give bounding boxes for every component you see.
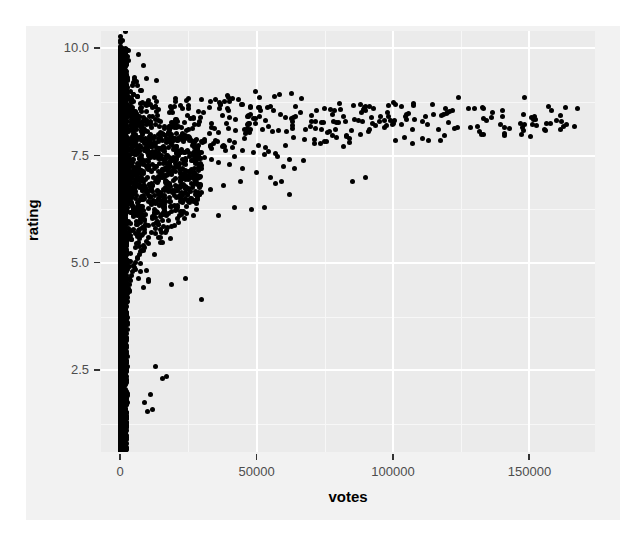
x-axis-tick-label: 0	[116, 464, 123, 479]
scatter-point	[183, 276, 188, 281]
scatter-point	[144, 76, 149, 81]
scatter-point	[196, 122, 201, 127]
scatter-point	[292, 166, 297, 171]
scatter-point	[426, 138, 431, 143]
scatter-point	[251, 116, 256, 121]
gridline-major-vertical	[528, 31, 530, 452]
scatter-point	[338, 107, 343, 112]
scatter-point	[230, 145, 235, 150]
scatter-point	[233, 117, 238, 122]
scatter-point	[169, 170, 174, 175]
scatter-point	[211, 141, 216, 146]
scatter-point	[455, 125, 460, 130]
scatter-point	[303, 127, 308, 132]
scatter-point	[130, 83, 135, 88]
scatter-point	[146, 206, 151, 211]
scatter-point	[358, 132, 363, 137]
scatter-point	[153, 104, 158, 109]
gridline-minor-vertical	[188, 31, 189, 452]
scatter-point	[242, 136, 247, 141]
scatter-point	[507, 126, 512, 131]
scatter-point	[423, 114, 428, 119]
scatter-point	[119, 230, 124, 235]
scatter-point	[167, 110, 172, 115]
scatter-point	[142, 400, 147, 405]
x-axis-tick-label: 150000	[508, 464, 551, 479]
scatter-point	[564, 122, 569, 127]
scatter-point	[149, 169, 154, 174]
y-axis-tick-label: 7.5	[29, 148, 89, 163]
scatter-point	[489, 115, 494, 120]
scatter-point	[534, 123, 539, 128]
scatter-point	[347, 140, 352, 145]
scatter-point	[392, 118, 397, 123]
scatter-point	[475, 124, 480, 129]
scatter-point	[268, 175, 273, 180]
scatter-point	[232, 140, 237, 145]
scatter-point	[319, 127, 324, 132]
scatter-point	[220, 144, 225, 149]
scatter-point	[226, 126, 231, 131]
scatter-point	[157, 202, 162, 207]
scatter-point	[153, 364, 158, 369]
scatter-point	[411, 103, 416, 108]
scatter-point	[136, 171, 141, 176]
scatter-point	[187, 200, 192, 205]
scatter-point	[522, 95, 527, 100]
scatter-point	[148, 155, 153, 160]
scatter-point	[124, 360, 129, 365]
scatter-point	[125, 320, 130, 325]
scatter-point	[309, 119, 314, 124]
scatter-point	[273, 181, 278, 186]
scatter-point	[187, 135, 192, 140]
scatter-point	[201, 110, 206, 115]
scatter-point	[165, 153, 170, 158]
scatter-point	[236, 97, 241, 102]
scatter-point	[484, 118, 489, 123]
scatter-point	[358, 102, 363, 107]
scatter-point	[287, 192, 292, 197]
scatter-point	[126, 163, 131, 168]
scatter-point	[118, 220, 123, 225]
scatter-point	[139, 88, 144, 93]
scatter-point	[195, 197, 200, 202]
scatter-point	[281, 164, 286, 169]
scatter-point	[276, 128, 281, 133]
scatter-point	[246, 122, 251, 127]
x-axis-tick-label: 100000	[371, 464, 414, 479]
scatter-point	[165, 225, 170, 230]
scatter-point	[490, 110, 495, 115]
scatter-point	[136, 52, 141, 57]
scatter-point	[341, 144, 346, 149]
scatter-point	[186, 106, 191, 111]
scatter-point	[371, 106, 376, 111]
scatter-point	[125, 148, 130, 153]
scatter-point	[253, 89, 258, 94]
scatter-point	[190, 151, 195, 156]
scatter-point	[150, 189, 155, 194]
scatter-point	[334, 135, 339, 140]
scatter-point	[146, 277, 151, 282]
scatter-point	[182, 216, 187, 221]
scatter-point	[197, 192, 202, 197]
scatter-point	[155, 188, 160, 193]
x-axis-tick-mark	[256, 454, 258, 460]
scatter-point	[369, 115, 374, 120]
scatter-point	[118, 439, 123, 444]
scatter-point	[268, 104, 273, 109]
x-axis-tick-mark	[528, 454, 530, 460]
scatter-point	[350, 179, 355, 184]
gridline-minor-vertical	[461, 31, 462, 452]
scatter-point	[168, 158, 173, 163]
scatter-point	[522, 122, 527, 127]
scatter-point	[183, 186, 188, 191]
scatter-point	[148, 392, 153, 397]
scatter-point	[223, 148, 228, 153]
scatter-point	[373, 123, 378, 128]
scatter-point	[436, 127, 441, 132]
scatter-point	[174, 156, 179, 161]
gridline-major-horizontal	[101, 47, 595, 49]
x-axis-title: votes	[101, 488, 595, 505]
scatter-point	[287, 157, 292, 162]
scatter-point	[168, 236, 173, 241]
